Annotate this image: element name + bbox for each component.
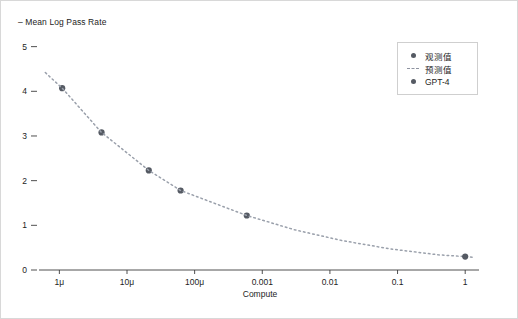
- y-axis-tick-label: 3: [5, 131, 27, 141]
- x-axis-tick-label: 1μ: [37, 277, 81, 287]
- legend-item-observed[interactable]: 观测值: [405, 49, 470, 62]
- legend-label-observed: 观测值: [421, 50, 452, 62]
- x-axis-tick-label: 10μ: [105, 277, 149, 287]
- y-axis-tick-label: 5: [5, 42, 27, 52]
- legend-label-gpt4: GPT-4: [421, 77, 450, 87]
- legend-marker-dot-icon: [405, 53, 421, 58]
- x-axis-tick-label: 0.001: [240, 277, 284, 287]
- x-axis-tick-label: 0.01: [308, 277, 352, 287]
- x-axis-title: Compute: [1, 289, 518, 299]
- x-axis-tick-label: 100μ: [173, 277, 217, 287]
- legend-marker-dot-icon: [405, 79, 421, 84]
- y-axis-tick-label: 0: [5, 265, 27, 275]
- legend-label-predicted: 预测值: [421, 63, 452, 75]
- chart-figure: – Mean Log Pass Rate Compute 012345 1μ10…: [0, 0, 518, 319]
- legend-item-predicted[interactable]: 预测值: [405, 62, 470, 75]
- chart-series: [45, 73, 475, 260]
- chart-legend: 观测值 预测值 GPT-4: [397, 42, 478, 95]
- y-axis-tick-label: 4: [5, 86, 27, 96]
- y-axis-tick-label: 2: [5, 176, 27, 186]
- x-axis-tick-label: 0.1: [376, 277, 420, 287]
- y-axis-tick-label: 1: [5, 220, 27, 230]
- y-axis-title: – Mean Log Pass Rate: [18, 17, 106, 27]
- legend-item-gpt4[interactable]: GPT-4: [405, 75, 470, 88]
- legend-marker-dash-icon: [405, 68, 421, 69]
- x-axis-tick-label: 1: [443, 277, 487, 287]
